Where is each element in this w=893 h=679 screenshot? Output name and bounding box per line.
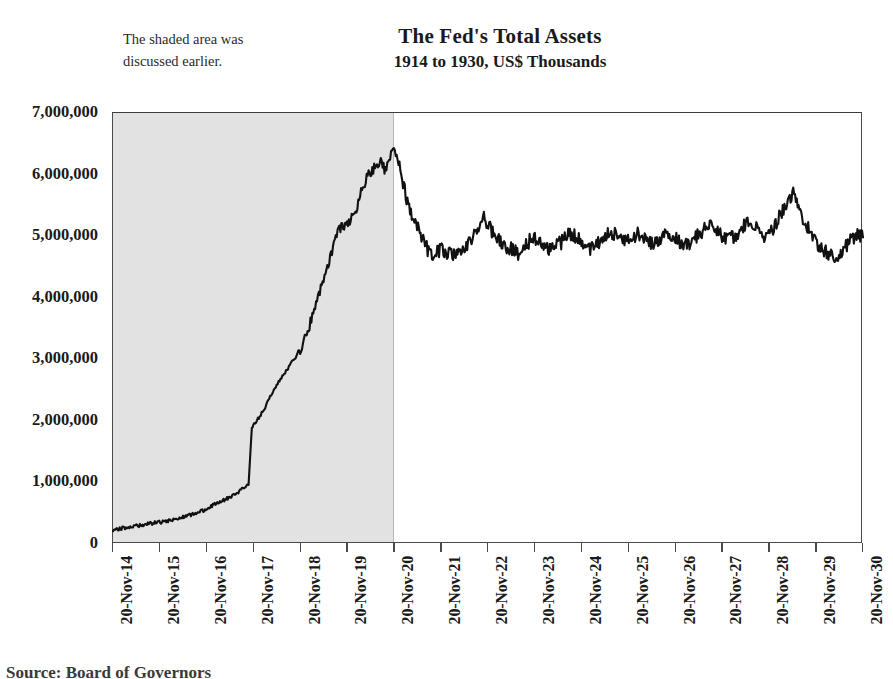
y-tick-label: 7,000,000 [0,102,104,122]
x-tick-mark [346,543,347,552]
x-axis-labels: 20-Nov-1420-Nov-1520-Nov-1620-Nov-1720-N… [112,556,862,666]
x-tick-label: 20-Nov-22 [493,556,511,624]
y-tick-label: 3,000,000 [0,348,104,368]
y-tick-label: 1,000,000 [0,471,104,491]
x-tick-mark [487,543,488,552]
x-tick-label: 20-Nov-27 [727,556,745,624]
x-tick-mark [206,543,207,552]
x-tick-mark [581,543,582,552]
x-tick-label: 20-Nov-28 [774,556,792,624]
x-tick-mark [300,543,301,552]
x-tick-label: 20-Nov-17 [259,556,277,624]
x-tick-label: 20-Nov-26 [681,556,699,624]
x-tick-mark [534,543,535,552]
x-tick-label: 20-Nov-16 [212,556,230,624]
x-tick-label: 20-Nov-15 [165,556,183,624]
y-tick-label: 5,000,000 [0,225,104,245]
plot-area [112,112,862,543]
page-title: The Fed's Total Assets [330,24,670,49]
x-tick-mark [112,543,113,552]
x-tick-mark [159,543,160,552]
x-tick-label: 20-Nov-14 [118,556,136,624]
x-tick-label: 20-Nov-24 [587,556,605,624]
x-tick-label: 20-Nov-30 [868,556,886,624]
x-tick-label: 20-Nov-19 [352,556,370,624]
y-tick-label: 0 [0,533,104,553]
y-tick-label: 4,000,000 [0,287,104,307]
x-tick-label: 20-Nov-21 [446,556,464,624]
chart-figure: The Fed's Total Assets 1914 to 1930, US$… [0,0,893,679]
y-tick-label: 2,000,000 [0,410,104,430]
chart-subtitle: 1914 to 1930, US$ Thousands [330,52,670,72]
source-note: Source: Board of Governors [6,663,211,679]
x-tick-mark [862,543,863,552]
x-tick-mark [440,543,441,552]
x-tick-mark [628,543,629,552]
x-tick-label: 20-Nov-23 [540,556,558,624]
x-tick-label: 20-Nov-18 [306,556,324,624]
x-tick-label: 20-Nov-25 [634,556,652,624]
x-tick-label: 20-Nov-20 [399,556,417,624]
x-tick-mark [393,543,394,552]
y-axis-labels: 01,000,0002,000,0003,000,0004,000,0005,0… [0,0,104,679]
x-tick-mark [815,543,816,552]
x-tick-mark [675,543,676,552]
shaded-area-annotation: The shaded area was discussed earlier. [123,28,273,72]
x-tick-mark [768,543,769,552]
x-tick-mark [253,543,254,552]
x-tick-mark [721,543,722,552]
x-tick-label: 20-Nov-29 [821,556,839,624]
series-total-assets [113,113,863,544]
x-axis-ticks [112,543,862,555]
y-tick-label: 6,000,000 [0,164,104,184]
chart-title-block: The Fed's Total Assets 1914 to 1930, US$… [330,24,670,72]
